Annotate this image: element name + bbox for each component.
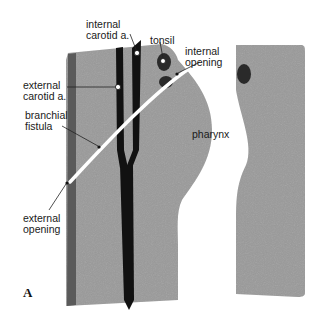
branchial-fistula-diagram: internal carotid a. tonsil internal open… (0, 0, 323, 318)
label-internal-opening: internal opening (185, 46, 222, 68)
anatomy-illustration (0, 0, 323, 318)
label-external-opening: external opening (23, 213, 60, 235)
label-external-carotid: external carotid a. (23, 80, 66, 102)
label-pharynx: pharynx (192, 129, 229, 140)
label-branchial-fistula: branchial fistula (25, 110, 68, 132)
label-internal-carotid: internal carotid a. (86, 19, 129, 41)
panel-letter: A (23, 285, 32, 301)
tonsil-right (237, 64, 251, 84)
label-tonsil: tonsil (150, 35, 175, 46)
